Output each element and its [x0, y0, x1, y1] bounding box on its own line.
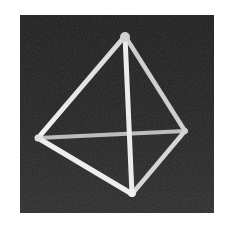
vertex-left — [35, 135, 42, 142]
tetrahedron-wireframe — [20, 15, 214, 213]
vertex-right — [182, 128, 188, 134]
vertex-bottom — [128, 189, 136, 197]
vertex-top — [120, 32, 130, 42]
tetrahedron-photo — [20, 15, 214, 213]
